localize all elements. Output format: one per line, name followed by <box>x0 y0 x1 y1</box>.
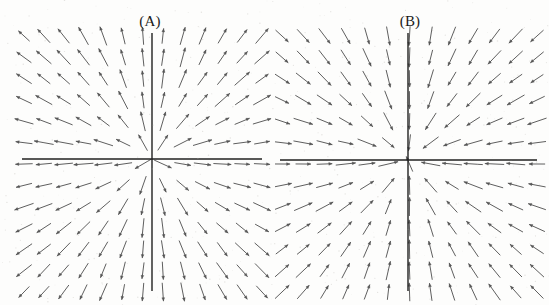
field-arrow <box>531 286 543 298</box>
field-arrow <box>119 199 128 214</box>
field-arrow <box>358 139 376 146</box>
field-arrow <box>59 265 69 276</box>
field-arrow <box>489 74 501 84</box>
field-arrow <box>36 204 52 210</box>
field-arrow <box>141 283 144 300</box>
field-arrow <box>199 28 206 44</box>
field-arrow <box>215 94 229 107</box>
field-arrow <box>141 92 144 108</box>
field-arrow <box>294 183 312 188</box>
field-arrow <box>161 92 165 107</box>
field-arrow <box>446 181 459 189</box>
field-arrow <box>510 265 522 277</box>
field-arrow <box>509 204 523 210</box>
field-arrow <box>343 285 349 299</box>
field-arrow <box>449 284 455 300</box>
field-arrow <box>120 70 127 88</box>
field-arrow <box>117 180 129 191</box>
field-arrow <box>178 198 188 215</box>
field-arrow <box>379 161 398 166</box>
field-arrow <box>317 183 333 188</box>
field-arrow <box>256 29 268 43</box>
field-arrow <box>99 242 108 257</box>
field-arrow <box>36 184 52 188</box>
field-arrow <box>55 118 72 125</box>
field-arrow <box>529 225 544 232</box>
field-arrow <box>528 142 545 145</box>
field-arrow <box>141 219 144 238</box>
field-arrow <box>58 29 69 43</box>
field-arrow <box>385 91 392 109</box>
field-arrow <box>426 199 435 215</box>
field-arrow <box>99 72 107 85</box>
field-arrow <box>448 27 455 45</box>
field-arrow <box>56 203 71 210</box>
field-arrow <box>509 224 523 232</box>
field-arrow <box>531 30 544 41</box>
field-arrow <box>275 203 290 210</box>
field-arrow <box>275 74 289 83</box>
direction-field-plot-b <box>275 0 549 305</box>
field-arrow <box>429 284 432 301</box>
field-arrow <box>428 50 432 64</box>
field-arrow <box>76 117 91 125</box>
field-arrow <box>296 96 311 105</box>
field-arrow <box>141 241 144 258</box>
field-arrow <box>276 245 288 254</box>
direction-field-plot-a <box>0 0 275 305</box>
field-arrow <box>317 118 332 124</box>
field-arrow <box>507 162 525 165</box>
field-arrow <box>115 163 132 166</box>
field-arrow <box>341 50 350 64</box>
field-arrow <box>255 51 269 64</box>
field-arrow <box>161 198 166 215</box>
field-arrow <box>162 29 165 44</box>
field-arrow <box>255 141 270 144</box>
field-arrow <box>297 285 309 298</box>
field-arrow <box>100 284 107 301</box>
field-arrow <box>339 118 352 125</box>
field-arrow <box>38 30 50 43</box>
field-arrow <box>489 284 500 300</box>
field-arrow <box>361 116 372 126</box>
field-arrow <box>464 140 482 146</box>
field-arrow <box>485 162 504 165</box>
field-arrow <box>508 118 524 124</box>
field-arrow <box>120 241 127 257</box>
field-arrow <box>79 263 88 277</box>
panel-label-a: (A) <box>139 13 160 30</box>
field-arrow <box>297 30 309 43</box>
field-arrow <box>77 202 91 210</box>
field-arrow <box>294 118 312 124</box>
field-arrow <box>77 95 89 106</box>
field-arrow <box>161 241 165 258</box>
field-arrow <box>234 183 251 188</box>
field-arrow <box>199 263 206 278</box>
field-arrow <box>275 224 290 232</box>
field-arrow <box>428 241 433 257</box>
field-arrow <box>296 163 311 166</box>
field-arrow <box>217 243 227 256</box>
field-arrow <box>317 141 332 145</box>
field-arrow <box>508 142 523 145</box>
field-arrow <box>180 28 185 45</box>
field-arrow <box>194 163 210 166</box>
field-arrow <box>96 182 111 189</box>
field-arrow <box>359 162 375 165</box>
field-arrow <box>361 201 373 213</box>
field-arrow <box>428 70 434 88</box>
field-arrow <box>275 142 291 145</box>
field-arrow <box>37 118 51 124</box>
field-arrow <box>58 73 70 83</box>
field-arrow <box>488 223 501 232</box>
field-arrow <box>100 27 107 45</box>
field-arrow <box>218 285 227 300</box>
field-arrow <box>464 162 482 165</box>
field-arrow <box>177 114 189 128</box>
field-arrow <box>363 94 372 107</box>
field-arrow <box>428 262 432 279</box>
field-arrow <box>236 223 248 233</box>
field-arrow <box>74 163 93 166</box>
field-arrow <box>469 264 478 278</box>
field-arrow <box>528 118 546 125</box>
